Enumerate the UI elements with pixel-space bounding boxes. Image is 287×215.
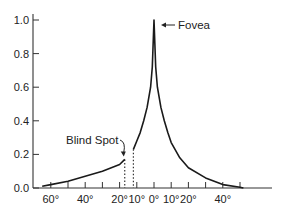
y-tick-label: 0.2 xyxy=(14,148,29,160)
x-tick-label: 0° xyxy=(149,193,160,205)
x-tick-label: 10° xyxy=(163,193,180,205)
blind-spot-arrow-line xyxy=(120,140,124,152)
y-tick-label: 0.0 xyxy=(14,182,29,194)
acuity-line xyxy=(42,159,125,186)
x-tick-label: 40° xyxy=(77,193,94,205)
x-tick-label: 20° xyxy=(180,193,197,205)
y-tick-label: 0.6 xyxy=(14,81,29,93)
x-tick-label: 40° xyxy=(214,193,231,205)
x-tick-label: 20° xyxy=(111,193,128,205)
y-tick-label: 0.4 xyxy=(14,115,29,127)
annotations: FoveaBlind Spot xyxy=(66,19,211,188)
blind-spot-label: Blind Spot xyxy=(66,134,119,146)
blind-spot-arrow-head xyxy=(121,151,126,156)
acuity-curve xyxy=(42,20,243,188)
tick-marks: 0.00.20.40.60.81.060°40°20°10°0°10°20°40… xyxy=(14,14,240,205)
x-tick-label: 10° xyxy=(128,193,145,205)
acuity-chart: 0.00.20.40.60.81.060°40°20°10°0°10°20°40… xyxy=(0,0,287,215)
acuity-line xyxy=(133,20,243,188)
y-tick-label: 1.0 xyxy=(14,14,29,26)
fovea-arrow-head xyxy=(161,23,166,28)
fovea-label: Fovea xyxy=(178,19,211,31)
x-tick-label: 60° xyxy=(42,193,59,205)
y-tick-label: 0.8 xyxy=(14,48,29,60)
